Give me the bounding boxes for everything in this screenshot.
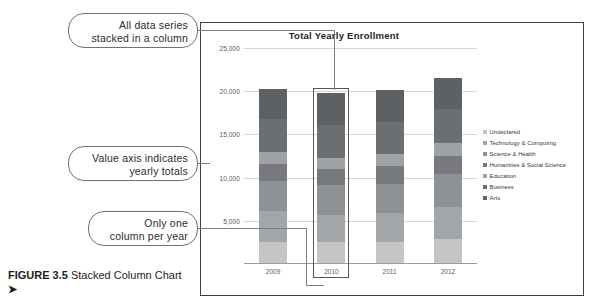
legend-label: Education xyxy=(490,173,517,179)
leader-series-vertical xyxy=(334,30,335,90)
legend-label: Technology & Computing xyxy=(490,140,557,146)
column-segment[interactable] xyxy=(434,143,462,156)
column-segment[interactable] xyxy=(434,156,462,174)
legend-item[interactable]: Arts xyxy=(483,194,583,204)
legend-item[interactable]: Science & Health xyxy=(483,149,583,159)
legend-swatch-icon xyxy=(483,152,487,156)
leader-column-horizontal xyxy=(198,228,306,229)
legend-swatch-icon xyxy=(483,163,487,167)
chart-title: Total Yearly Enrollment xyxy=(201,30,487,41)
figure-page: All data series stacked in a column Valu… xyxy=(0,0,589,308)
stacked-column-2011[interactable] xyxy=(376,90,404,264)
plot-inner: 5,00010,00015,00020,00025,000 2009201020… xyxy=(244,48,477,264)
column-segment[interactable] xyxy=(434,109,462,144)
legend-swatch-icon xyxy=(483,130,487,134)
column-segment[interactable] xyxy=(259,211,287,241)
column-segment[interactable] xyxy=(259,181,287,211)
legend-label: Business xyxy=(490,184,514,190)
callout-axis-line1: Value axis indicates xyxy=(77,152,188,165)
legend-swatch-icon xyxy=(483,196,487,200)
value-axis-label: 5,000 xyxy=(223,217,240,224)
column-segment[interactable] xyxy=(434,207,462,239)
leader-column-horizontal-2 xyxy=(306,285,324,286)
callout-value-axis: Value axis indicates yearly totals xyxy=(68,146,198,181)
legend-swatch-icon xyxy=(483,174,487,178)
stacked-column-2009[interactable] xyxy=(259,89,287,264)
figure-caption: FIGURE 3.5 Stacked Column Chart ➤ xyxy=(8,268,188,296)
column-segment[interactable] xyxy=(259,242,287,264)
legend-label: Undeclared xyxy=(490,129,521,135)
callout-column-line1: Only one xyxy=(97,217,188,230)
column-segment[interactable] xyxy=(259,119,287,152)
column-segment[interactable] xyxy=(376,90,404,122)
callout-axis-line2: yearly totals xyxy=(77,165,188,178)
leader-series-horizontal xyxy=(198,30,334,31)
figure-title: Stacked Column Chart xyxy=(71,269,182,281)
column-segment[interactable] xyxy=(259,164,287,181)
figure-number: FIGURE 3.5 xyxy=(8,269,68,281)
value-axis-label: 20,000 xyxy=(220,88,240,95)
legend-item[interactable]: Business xyxy=(483,182,583,192)
column-segment[interactable] xyxy=(259,152,287,164)
callout-series-line1: All data series xyxy=(77,19,188,32)
legend-swatch-icon xyxy=(483,185,487,189)
legend-swatch-icon xyxy=(483,141,487,145)
legend-item[interactable]: Humanities & Social Science xyxy=(483,160,583,170)
legend-label: Arts xyxy=(490,195,501,201)
category-label-2011: 2011 xyxy=(383,268,397,275)
column-segment[interactable] xyxy=(434,239,462,264)
category-axis-line xyxy=(244,263,477,264)
legend-label: Humanities & Social Science xyxy=(490,162,567,168)
column-segment[interactable] xyxy=(259,89,287,119)
legend-item[interactable]: Technology & Computing xyxy=(483,138,583,148)
leader-column-vertical xyxy=(306,228,307,285)
gridline xyxy=(244,48,477,49)
value-axis-label: 15,000 xyxy=(220,131,240,138)
column-segment[interactable] xyxy=(434,78,462,108)
chart-legend: UndeclaredTechnology & ComputingScience … xyxy=(483,127,583,205)
column-segment[interactable] xyxy=(376,184,404,213)
stacked-column-2012[interactable] xyxy=(434,78,462,264)
legend-item[interactable]: Undeclared xyxy=(483,127,583,137)
column-segment[interactable] xyxy=(434,174,462,207)
callout-series-line2: stacked in a column xyxy=(77,32,188,45)
legend-label: Science & Health xyxy=(490,151,536,157)
value-axis-label: 25,000 xyxy=(220,45,240,52)
category-label-2012: 2012 xyxy=(441,268,455,275)
column-segment[interactable] xyxy=(376,242,404,264)
column-segment[interactable] xyxy=(376,122,404,154)
chart-frame: Total Yearly Enrollment 5,00010,00015,00… xyxy=(200,22,584,296)
callout-column-line2: column per year xyxy=(97,230,188,243)
callout-all-data-series: All data series stacked in a column xyxy=(68,13,198,48)
plot-area: 5,00010,00015,00020,00025,000 2009201020… xyxy=(244,48,477,264)
callout-only-one-column: Only one column per year xyxy=(88,211,198,246)
leader-axis-horizontal xyxy=(198,163,210,164)
column-segment[interactable] xyxy=(376,154,404,166)
column-segment[interactable] xyxy=(376,213,404,242)
category-label-2009: 2009 xyxy=(266,268,280,275)
legend-item[interactable]: Education xyxy=(483,171,583,181)
highlight-column-2010 xyxy=(313,88,349,278)
figure-arrow-icon: ➤ xyxy=(8,283,17,295)
column-segment[interactable] xyxy=(376,166,404,183)
value-axis-label: 10,000 xyxy=(220,174,240,181)
